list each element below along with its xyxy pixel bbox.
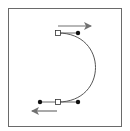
bezier-curve [58,33,96,102]
top-handle[interactable] [76,31,80,35]
bottom-handle-right[interactable] [76,100,80,104]
top-anchor[interactable] [56,31,61,36]
bottom-anchor[interactable] [56,100,61,105]
bottom-handle-left[interactable] [38,100,42,104]
bezier-diagram [0,0,130,131]
